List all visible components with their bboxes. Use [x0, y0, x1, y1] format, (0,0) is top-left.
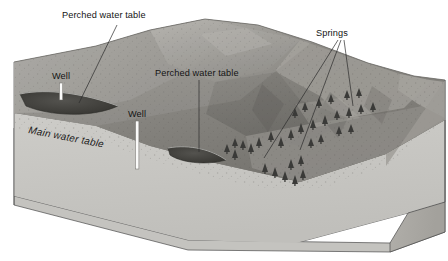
- block-diagram-svg: Perched water table Perched water table …: [0, 0, 448, 261]
- label-perched-water-table-lower: Perched water table: [155, 68, 239, 78]
- label-well-left: Well: [52, 71, 70, 81]
- well-center-casing: [136, 121, 139, 169]
- well-left: [60, 83, 63, 100]
- well-center: [136, 121, 139, 169]
- well-left-casing: [60, 83, 63, 100]
- label-perched-water-table-upper: Perched water table: [62, 10, 146, 20]
- label-springs: Springs: [316, 28, 348, 38]
- label-well-center: Well: [128, 109, 146, 119]
- block-diagram-figure: Perched water table Perched water table …: [0, 0, 448, 261]
